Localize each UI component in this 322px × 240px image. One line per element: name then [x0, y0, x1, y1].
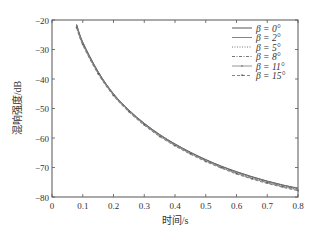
y-tick-label: −50 — [35, 104, 50, 114]
y-tick-label: −80 — [35, 193, 50, 203]
y-tick-label: −60 — [35, 134, 50, 144]
x-tick-label: 0.3 — [139, 201, 151, 211]
reverberation-chart: 00.10.20.30.40.50.60.70.8 −80−70−60−50−4… — [0, 0, 322, 240]
x-tick-label: 0.2 — [108, 201, 119, 211]
legend-label: β = 15° — [255, 71, 285, 81]
legend-label: β = 8° — [255, 52, 281, 62]
y-tick-label: −30 — [35, 45, 50, 55]
series-marker: * — [297, 189, 300, 194]
x-tick-label: 0.7 — [262, 201, 274, 211]
legend-label: β = 5° — [255, 43, 281, 53]
legend-label: β = 11° — [255, 62, 285, 72]
y-tick-label: −70 — [35, 163, 50, 173]
legend-marker: * — [241, 73, 244, 79]
y-axis-label: 混响强度/dB — [11, 80, 23, 135]
x-tick-label: 0.4 — [169, 201, 181, 211]
legend-label: β = 2° — [255, 33, 281, 43]
legend-marker — [241, 65, 243, 67]
legend-label: β = 0° — [255, 24, 281, 34]
x-tick-label: 0.8 — [292, 201, 304, 211]
x-tick-label: 0.5 — [200, 201, 212, 211]
y-tick-label: −40 — [35, 75, 50, 85]
y-tick-label: −20 — [35, 16, 50, 26]
x-tick-label: 0.1 — [77, 201, 88, 211]
x-axis-label: 时间/s — [162, 214, 189, 226]
x-tick-label: 0.6 — [231, 201, 243, 211]
x-tick-label: 0 — [50, 201, 55, 211]
